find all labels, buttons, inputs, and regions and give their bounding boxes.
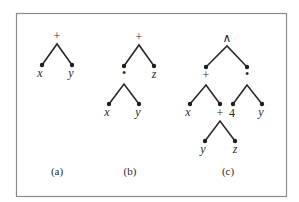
tree-a-left-leaf-label: x [36, 66, 43, 80]
tree-b-right-leaf-label: z [151, 67, 157, 81]
tree-b-caption: (b) [124, 165, 137, 178]
tree-c-bottom-edges [205, 121, 235, 141]
tree-c-right-sub-right-leaf-label: y [257, 105, 264, 119]
tree-c: ∧ + • x + 4 y y z (c) [184, 31, 264, 178]
tree-b-sub-left-leaf-label: x [103, 105, 110, 119]
tree-c-left-sub-edges [190, 85, 220, 104]
tree-b-lower-edges [109, 84, 139, 104]
tree-c-left-sub-right-operator: + [217, 106, 224, 120]
tree-a-root-operator: + [54, 29, 61, 43]
tree-c-caption: (c) [222, 165, 235, 178]
tree-b: + • z x y (b) [103, 30, 156, 178]
tree-c-right-sub-edges [233, 85, 262, 104]
tree-b-upper-edges [124, 45, 154, 66]
tree-a-caption: (a) [51, 165, 64, 178]
tree-b-sub-right-leaf-label: y [134, 105, 141, 119]
tree-b-root-operator: + [136, 30, 143, 44]
tree-c-right-child-operator: • [245, 67, 249, 81]
tree-c-bottom-left-leaf-label: y [199, 142, 206, 156]
tree-b-left-child-operator: • [122, 66, 126, 80]
tree-a-edges [42, 44, 72, 65]
expression-trees-figure: + x y (a) + • z x y (b) ∧ + • x + [0, 0, 299, 202]
tree-c-left-sub-left-leaf-label: x [184, 105, 191, 119]
tree-c-root-operator: ∧ [223, 31, 232, 45]
tree-c-right-sub-left-leaf-label: 4 [229, 106, 235, 120]
tree-c-bottom-right-leaf-label: z [232, 142, 238, 156]
tree-a: + x y (a) [36, 29, 74, 178]
tree-c-left-child-operator: + [203, 68, 210, 82]
tree-a-right-leaf-label: y [67, 66, 74, 80]
tree-c-upper-edges [206, 46, 247, 67]
